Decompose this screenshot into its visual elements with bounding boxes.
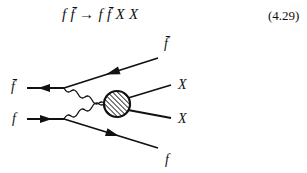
arrow-left-icon (106, 67, 121, 75)
feynman-diagram (0, 0, 307, 173)
label-outgoing-antifermion: f̄ (164, 37, 168, 51)
label-outgoing-x2: X (178, 112, 187, 126)
label-outgoing-x1: X (178, 78, 187, 92)
label-outgoing-fermion: f (165, 153, 169, 167)
arrow-right-icon (105, 128, 119, 136)
label-incoming-fermion: f (12, 112, 16, 126)
outgoing-x2-line (128, 110, 171, 118)
arrow-left-icon (38, 84, 50, 92)
interaction-blob (104, 91, 130, 117)
outgoing-x1-line (128, 85, 171, 98)
arrow-right-icon (40, 115, 52, 123)
label-incoming-antifermion: f̄ (11, 80, 15, 94)
